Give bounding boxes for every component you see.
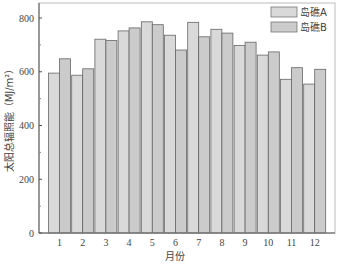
x-tick-label: 8 <box>219 237 224 248</box>
bar-b-month-9 <box>245 42 256 233</box>
x-tick-label: 7 <box>196 237 201 248</box>
y-tick-label: 0 <box>29 228 34 239</box>
bar-b-month-1 <box>60 59 71 233</box>
bar-a-month-4 <box>118 31 129 233</box>
bar-a-month-8 <box>211 29 222 233</box>
bar-a-month-1 <box>49 73 60 233</box>
x-axis-title: 月份 <box>165 251 185 262</box>
bar-b-month-12 <box>315 69 326 233</box>
legend: 岛礁A 岛礁B <box>271 6 327 33</box>
bar-a-month-11 <box>281 79 292 233</box>
x-tick-label: 2 <box>80 237 85 248</box>
bar-b-month-6 <box>176 50 187 233</box>
legend-label-a: 岛礁A <box>300 6 327 18</box>
y-tick-label: 200 <box>19 174 34 185</box>
x-tick-label: 9 <box>243 237 248 248</box>
bars-group <box>49 22 326 233</box>
y-axis-title: 太阳总辐照能（MJ/m²） <box>3 64 15 173</box>
bar-a-month-6 <box>165 35 176 233</box>
y-tick-label: 600 <box>19 66 34 77</box>
bar-a-month-3 <box>95 39 106 233</box>
x-tick-label: 6 <box>173 237 178 248</box>
x-tick-label: 3 <box>103 237 108 248</box>
bar-b-month-3 <box>106 41 117 233</box>
bar-a-month-9 <box>234 45 245 233</box>
bar-a-month-7 <box>188 22 199 233</box>
x-tick-label: 12 <box>310 237 320 248</box>
legend-swatch-a <box>271 7 297 17</box>
bar-b-month-5 <box>152 25 163 233</box>
x-tick-label: 1 <box>57 237 62 248</box>
x-tick-label: 10 <box>263 237 273 248</box>
legend-swatch-b <box>271 22 297 32</box>
x-tick-label: 4 <box>127 237 132 248</box>
bar-a-month-10 <box>257 55 268 233</box>
x-tick-label: 11 <box>287 237 297 248</box>
legend-label-b: 岛礁B <box>300 21 327 33</box>
bar-a-month-5 <box>141 22 152 233</box>
y-tick-label: 400 <box>19 120 34 131</box>
x-ticks: 123456789101112 <box>57 237 320 248</box>
bar-b-month-8 <box>222 33 233 233</box>
bar-b-month-10 <box>268 52 279 233</box>
bar-b-month-2 <box>83 69 94 233</box>
y-tick-label: 800 <box>19 13 34 24</box>
bar-a-month-2 <box>72 75 83 233</box>
bar-chart: 0200400600800 123456789101112 月份 太阳总辐照能（… <box>0 0 341 268</box>
bar-b-month-4 <box>129 28 140 233</box>
bar-b-month-7 <box>199 37 210 233</box>
bar-b-month-11 <box>292 68 303 233</box>
x-tick-label: 5 <box>150 237 155 248</box>
bar-a-month-12 <box>304 84 315 233</box>
